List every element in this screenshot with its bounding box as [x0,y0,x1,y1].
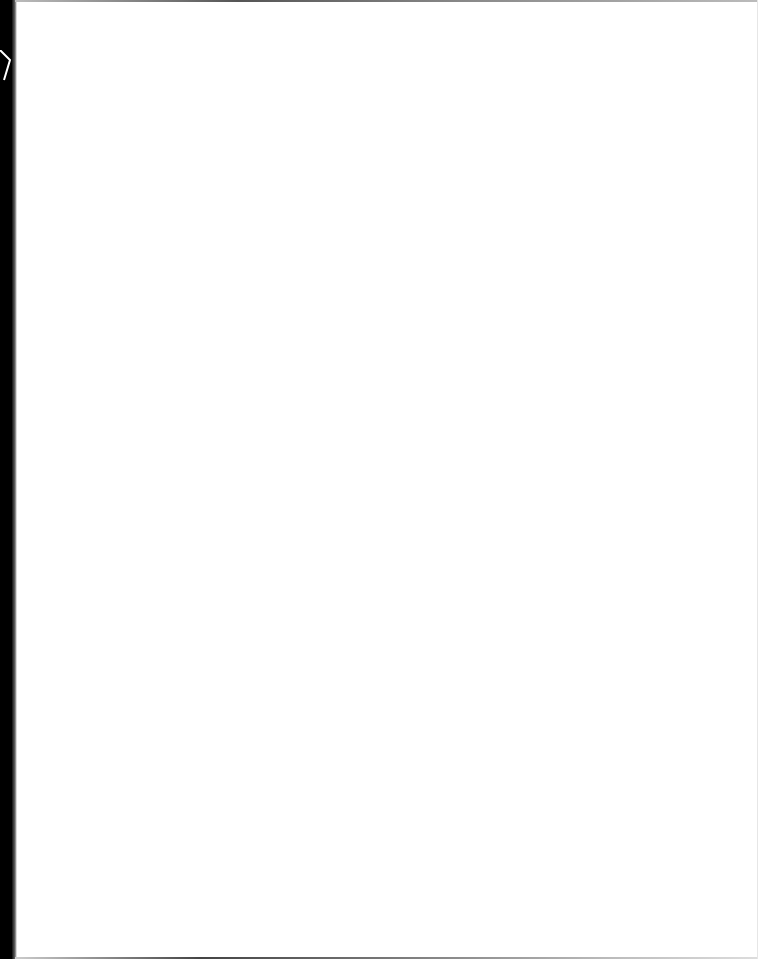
paper-tear-mark [0,50,14,90]
scanned-page [0,0,758,959]
blank-page-body [17,2,757,957]
